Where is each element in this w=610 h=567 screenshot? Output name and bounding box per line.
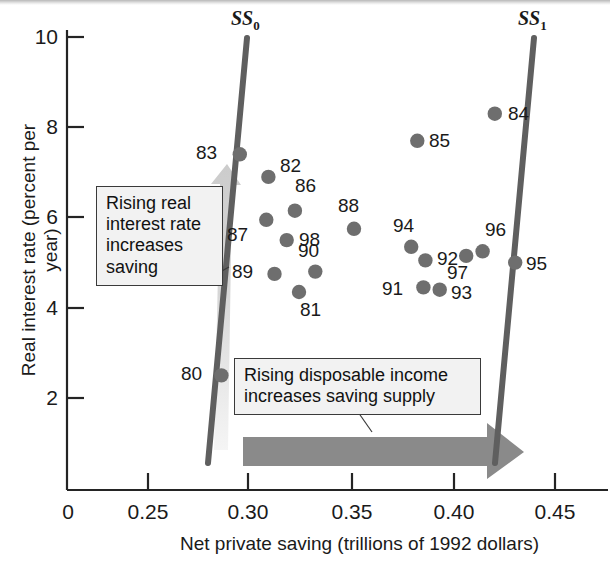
data-point-label-84: 84 <box>508 104 529 123</box>
x-tick-marks <box>148 473 555 490</box>
data-point-label-97: 97 <box>447 263 468 282</box>
y-tick-marks <box>67 37 84 398</box>
data-point-label-95: 95 <box>526 254 547 273</box>
data-point-93 <box>433 283 447 297</box>
right-arrow-icon <box>243 423 524 479</box>
data-point-label-93: 93 <box>451 283 472 302</box>
data-point-label-90: 90 <box>298 241 319 260</box>
data-point-88 <box>347 222 361 236</box>
data-point-96 <box>475 244 489 258</box>
x-tick-label-040: 0.40 <box>419 501 489 522</box>
data-point-label-86: 86 <box>295 176 316 195</box>
data-point-83 <box>233 147 247 161</box>
plot-canvas <box>0 0 610 567</box>
y-tick-label-10: 10 <box>18 26 58 47</box>
data-point-89 <box>267 267 281 281</box>
data-point-95 <box>508 255 522 269</box>
data-point-label-85: 85 <box>429 131 450 150</box>
data-point-91 <box>416 280 430 294</box>
data-point-82 <box>261 170 275 184</box>
x-tick-label-030: 0.30 <box>213 501 283 522</box>
data-point-92 <box>418 253 432 267</box>
ss1-label: SS1 <box>518 8 547 32</box>
data-point-label-89: 89 <box>232 262 253 281</box>
data-point-label-94: 94 <box>393 216 414 235</box>
data-point-label-88: 88 <box>338 196 359 215</box>
data-point-label-81: 81 <box>300 300 321 319</box>
data-point-84 <box>488 107 502 121</box>
data-point-markers <box>214 107 522 383</box>
x-tick-label-025: 0.25 <box>113 501 183 522</box>
data-point-label-87: 87 <box>227 225 248 244</box>
ss0-label: SS0 <box>231 8 260 32</box>
data-point-80 <box>214 368 228 382</box>
data-point-85 <box>410 134 424 148</box>
data-point-97 <box>459 249 473 263</box>
data-point-label-83: 83 <box>196 143 217 162</box>
callout-rising-disposable-income: Rising disposable income increases savin… <box>234 358 481 415</box>
callout-rising-real-interest-rate: Rising real interest rate increases savi… <box>96 186 223 286</box>
data-point-label-96: 96 <box>485 220 506 239</box>
data-point-81 <box>292 285 306 299</box>
data-point-87 <box>259 213 273 227</box>
data-point-98 <box>280 233 294 247</box>
data-point-label-82: 82 <box>280 156 301 175</box>
x-axis-title: Net private saving (trillions of 1992 do… <box>180 533 610 555</box>
ss1-curve <box>495 38 534 463</box>
data-point-label-80: 80 <box>181 364 202 383</box>
x-tick-label-035: 0.35 <box>317 501 387 522</box>
data-point-90 <box>308 264 322 278</box>
chart-figure: SS0 SS1 10 8 6 4 2 0 0.25 0.30 0.35 0.40… <box>0 0 610 567</box>
data-point-label-91: 91 <box>382 279 403 298</box>
x-tick-label-045: 0.45 <box>520 501 590 522</box>
x-origin-label: 0 <box>33 501 103 522</box>
data-point-86 <box>288 204 302 218</box>
y-axis-title: Real interest rate (percent per year) <box>18 105 62 395</box>
data-point-94 <box>404 240 418 254</box>
